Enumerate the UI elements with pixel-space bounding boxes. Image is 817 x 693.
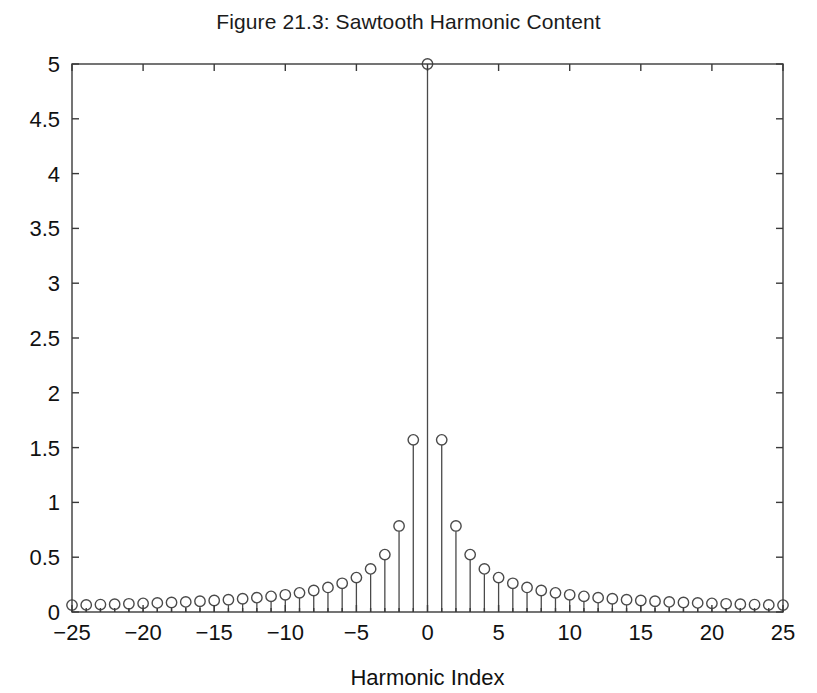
stem-point bbox=[522, 582, 532, 612]
x-tick-label: −5 bbox=[344, 620, 369, 645]
y-tick-label: 2 bbox=[48, 381, 60, 406]
stem-point bbox=[451, 521, 461, 612]
stem-series-group bbox=[67, 59, 788, 612]
stem-point bbox=[365, 564, 375, 612]
y-tick-label: 5 bbox=[48, 52, 60, 77]
stem-point bbox=[309, 585, 319, 612]
stem-point bbox=[422, 59, 432, 612]
stem-point bbox=[508, 578, 518, 612]
stem-point bbox=[536, 585, 546, 612]
x-tick-label: 5 bbox=[492, 620, 504, 645]
y-tick-label: 3.5 bbox=[29, 216, 60, 241]
stem-point bbox=[323, 582, 333, 612]
x-tick-label: 0 bbox=[421, 620, 433, 645]
x-tick-label: 10 bbox=[557, 620, 581, 645]
y-tick-label: 3 bbox=[48, 271, 60, 296]
x-axis-title: Harmonic Index bbox=[350, 665, 504, 690]
figure-container: Figure 21.3: Sawtooth Harmonic Content −… bbox=[0, 0, 817, 693]
y-tick-label: 1 bbox=[48, 490, 60, 515]
stem-point bbox=[380, 549, 390, 612]
stem-point bbox=[337, 578, 347, 612]
y-tick-label: 2.5 bbox=[29, 326, 60, 351]
stem-point bbox=[479, 564, 489, 612]
y-tick-label: 0.5 bbox=[29, 545, 60, 570]
stem-point bbox=[394, 521, 404, 612]
y-tick-labels: 00.511.522.533.544.55 bbox=[29, 52, 60, 625]
stem-point bbox=[465, 549, 475, 612]
stem-point bbox=[408, 435, 418, 612]
stem-plot: −25−20−15−10−50510152025 00.511.522.533.… bbox=[0, 0, 817, 693]
x-tick-label: −20 bbox=[124, 620, 161, 645]
x-tick-labels: −25−20−15−10−50510152025 bbox=[53, 620, 795, 645]
x-tick-label: 20 bbox=[700, 620, 724, 645]
y-tick-label: 1.5 bbox=[29, 436, 60, 461]
x-tick-label: −10 bbox=[267, 620, 304, 645]
y-tick-label: 4 bbox=[48, 162, 60, 187]
x-tick-label: 25 bbox=[771, 620, 795, 645]
stem-point bbox=[437, 435, 447, 612]
x-tick-label: −15 bbox=[196, 620, 233, 645]
y-tick-label: 4.5 bbox=[29, 107, 60, 132]
x-tick-label: 15 bbox=[629, 620, 653, 645]
y-tick-label: 0 bbox=[48, 600, 60, 625]
